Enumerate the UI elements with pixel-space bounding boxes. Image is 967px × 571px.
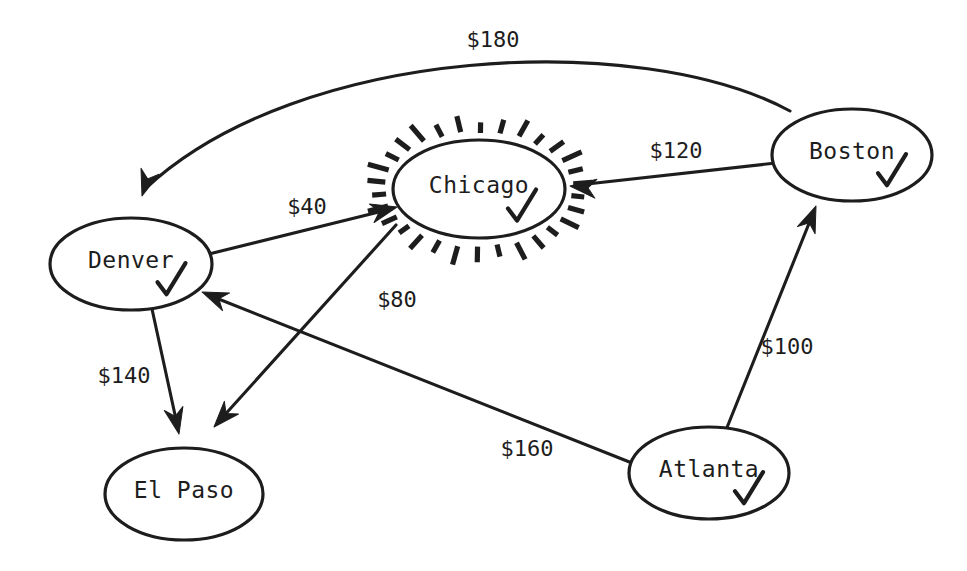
halo-ray — [497, 244, 500, 256]
graph-svg: DenverChicagoBostonAtlantaEl Paso $180$4… — [0, 0, 967, 571]
halo-ray — [516, 243, 525, 260]
halo-ray — [382, 217, 397, 224]
halo-ray — [573, 182, 592, 183]
node-denver[interactable]: Denver — [50, 218, 212, 310]
halo-ray — [533, 236, 543, 248]
halo-ray — [410, 235, 422, 248]
edge-atlanta-to-boston — [726, 202, 825, 430]
edge-line — [152, 309, 177, 424]
edge-weight-label: $120 — [650, 138, 703, 163]
halo-ray — [411, 126, 424, 141]
node-elpaso[interactable]: El Paso — [105, 448, 263, 540]
halo-ray — [457, 116, 461, 132]
node-label: Chicago — [429, 172, 529, 198]
halo-ray — [386, 154, 399, 160]
node-label: El Paso — [134, 477, 234, 503]
edge-weight-label: $80 — [377, 287, 417, 312]
edges-layer — [133, 62, 825, 463]
halo-ray — [568, 169, 582, 173]
halo-ray — [562, 152, 581, 161]
halo-ray — [561, 219, 579, 228]
halo-ray — [500, 120, 504, 134]
edge-weight-label: $180 — [467, 27, 520, 52]
halo-ray — [399, 226, 409, 233]
halo-ray — [433, 241, 440, 253]
halo-ray — [519, 121, 528, 137]
arrow-head-icon — [164, 407, 188, 436]
halo-ray — [547, 227, 557, 235]
halo-ray — [571, 196, 584, 197]
arrow-head-icon — [133, 168, 159, 199]
halo-ray — [372, 194, 386, 195]
edge-line — [221, 225, 396, 419]
nodes-layer: DenverChicagoBostonAtlantaEl Paso — [50, 109, 932, 540]
halo-ray — [436, 125, 442, 137]
edge-line — [578, 163, 776, 185]
edge-weight-label: $40 — [287, 194, 327, 219]
node-atlanta[interactable]: Atlanta — [629, 427, 789, 519]
edge-chicago-to-elpaso — [207, 225, 396, 433]
halo-ray — [367, 180, 385, 182]
halo-ray — [453, 246, 458, 264]
edge-line — [211, 296, 632, 463]
node-label: Denver — [88, 247, 174, 273]
edge-weight-label: $100 — [761, 334, 814, 359]
edge-denver-to-elpaso — [152, 309, 188, 436]
node-chicago[interactable]: Chicago — [393, 140, 565, 238]
node-label: Atlanta — [659, 456, 759, 482]
node-boston[interactable]: Boston — [772, 109, 932, 201]
edge-boston-to-chicago — [569, 163, 776, 198]
halo-ray — [568, 207, 584, 212]
halo-ray — [535, 135, 543, 144]
edge-weight-label: $140 — [98, 363, 151, 388]
node-label: Boston — [809, 138, 895, 164]
edge-weight-label: $160 — [501, 436, 554, 461]
halo-ray — [368, 164, 389, 170]
edge-line — [726, 216, 812, 430]
halo-ray — [396, 139, 410, 150]
arrow-head-icon — [797, 202, 824, 233]
halo-ray — [550, 142, 564, 152]
diagram-canvas: DenverChicagoBostonAtlantaEl Paso $180$4… — [0, 0, 967, 571]
